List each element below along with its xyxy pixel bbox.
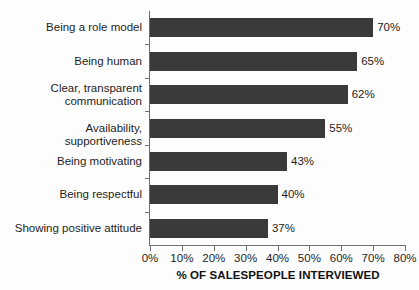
bar-value-label: 40% (278, 185, 305, 204)
bar-value-label: 62% (348, 85, 375, 104)
x-axis-tick (246, 246, 247, 251)
bar-value-label: 37% (268, 219, 295, 238)
bar (150, 85, 348, 104)
x-axis-tick-label: 40% (266, 252, 289, 264)
x-axis-tick-label: 10% (170, 252, 193, 264)
bar (150, 152, 287, 171)
category-label: Showing positive attitude (8, 222, 142, 235)
x-axis-tick (278, 246, 279, 251)
bar (150, 52, 357, 71)
x-axis-tick-label: 0% (142, 252, 159, 264)
category-label: Being human (8, 55, 142, 68)
y-axis-tick (145, 178, 150, 179)
bar-chart: Being a role modelBeing humanClear, tran… (0, 0, 419, 290)
category-label: Being motivating (8, 155, 142, 168)
x-axis-tick-label: 30% (234, 252, 257, 264)
bar-value-label: 55% (325, 119, 352, 138)
bar (150, 119, 325, 138)
x-axis-tick (405, 246, 406, 251)
category-label: Clear, transparent communication (8, 82, 142, 108)
x-axis-tick (373, 246, 374, 251)
x-axis-tick (309, 246, 310, 251)
y-axis-tick (145, 212, 150, 213)
x-axis-tick-label: 50% (298, 252, 321, 264)
category-label: Availability, supportiveness (8, 122, 142, 148)
category-label: Being respectful (8, 188, 142, 201)
x-axis-tick (150, 246, 151, 251)
bar (150, 185, 278, 204)
bar-value-label: 43% (287, 152, 314, 171)
bar-value-label: 65% (357, 52, 384, 71)
x-axis-tick (214, 246, 215, 251)
bar (150, 18, 373, 37)
x-axis-title: % OF SALESPEOPLE INTERVIEWED (150, 269, 406, 281)
x-axis-tick-label: 80% (393, 252, 416, 264)
y-axis-tick (145, 145, 150, 146)
y-axis-tick (145, 78, 150, 79)
x-axis-tick-label: 60% (330, 252, 353, 264)
plot-area: 70%65%62%55%43%40%37% (150, 11, 405, 245)
y-axis-tick (145, 44, 150, 45)
category-axis-labels: Being a role modelBeing humanClear, tran… (8, 11, 142, 245)
bar (150, 219, 268, 238)
x-axis-tick (182, 246, 183, 251)
y-axis-tick (145, 111, 150, 112)
x-axis-tick-label: 20% (202, 252, 225, 264)
x-axis-tick (341, 246, 342, 251)
bar-value-label: 70% (373, 18, 400, 37)
x-axis-tick-label: 70% (362, 252, 385, 264)
category-label: Being a role model (8, 21, 142, 34)
